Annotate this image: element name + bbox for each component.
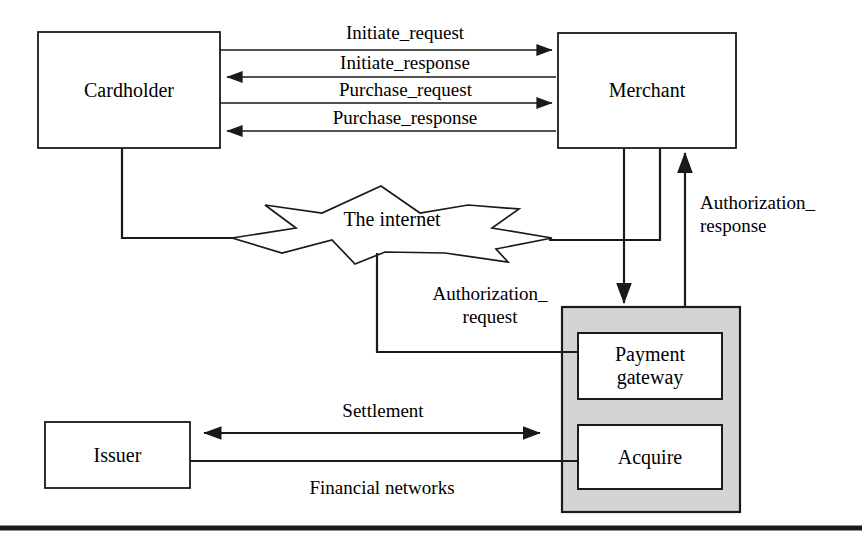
diagram-vector-layer xyxy=(0,0,862,540)
cardholder-box[interactable] xyxy=(38,32,220,148)
edge-merchant-internet xyxy=(549,148,660,240)
edge-authorization-request xyxy=(377,253,578,352)
diagram-canvas: Cardholder Merchant The internet Payment… xyxy=(0,0,862,540)
edge-cardholder-internet xyxy=(122,148,236,238)
internet-burst-shape xyxy=(232,186,552,264)
payment-gateway-box[interactable] xyxy=(578,333,722,399)
merchant-box[interactable] xyxy=(558,33,736,148)
issuer-box[interactable] xyxy=(45,422,190,488)
acquire-box[interactable] xyxy=(578,425,722,489)
